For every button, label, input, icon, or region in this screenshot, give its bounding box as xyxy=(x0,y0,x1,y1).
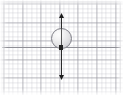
diagram-canvas xyxy=(0,0,123,95)
origin-node-marker xyxy=(59,45,63,50)
right-edge-rule xyxy=(120,2,121,93)
